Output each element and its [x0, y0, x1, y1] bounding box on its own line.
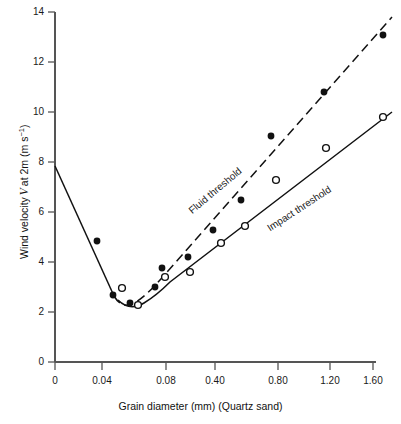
data-point-fluid-9 — [321, 89, 328, 96]
y-tick-label-14: 14 — [20, 6, 44, 17]
x-tick-label-0.04: 0.04 — [84, 375, 120, 386]
data-point-fluid-8 — [268, 133, 275, 140]
x-tick-label-1.20: 1.20 — [312, 375, 348, 386]
figure-container: 02468101214 00.040.080.400.801.201.60 Wi… — [0, 0, 401, 424]
data-point-impact-3 — [187, 269, 194, 276]
x-axis-label: Grain diameter (mm) (Quartz sand) — [0, 400, 401, 412]
data-point-impact-6 — [273, 177, 280, 184]
fluid-threshold-line — [114, 17, 392, 305]
data-point-fluid-7 — [238, 197, 245, 204]
data-point-fluid-2 — [127, 300, 134, 307]
data-point-impact-0 — [119, 285, 126, 292]
x-tick-label-0.08: 0.08 — [148, 375, 184, 386]
x-tick-label-0.80: 0.80 — [260, 375, 296, 386]
descending-branch-line — [55, 166, 114, 296]
data-point-fluid-5 — [185, 254, 192, 261]
data-point-fluid-10 — [380, 32, 387, 39]
chart-canvas — [0, 0, 401, 424]
data-point-fluid-3 — [152, 284, 159, 291]
y-axis-label-prefix: Wind velocity — [18, 197, 30, 259]
y-axis-label-suffix: at 2m (m s−1) — [18, 124, 30, 186]
x-tick-label-0.40: 0.40 — [197, 375, 233, 386]
velocity-symbol: V — [18, 186, 30, 197]
data-point-impact-2 — [162, 274, 169, 281]
data-point-impact-1 — [135, 302, 142, 309]
data-point-fluid-6 — [210, 227, 217, 234]
curve-lines — [55, 17, 392, 307]
data-point-fluid-1 — [110, 292, 117, 299]
x-tick-label-0: 0 — [37, 375, 73, 386]
x-tick-label-1.60: 1.60 — [355, 375, 391, 386]
data-point-impact-7 — [323, 145, 330, 152]
y-tick-label-2: 2 — [20, 306, 44, 317]
data-point-impact-4 — [218, 240, 225, 247]
data-point-fluid-4 — [159, 265, 166, 272]
y-tick-marks — [48, 12, 55, 362]
impact-threshold-line — [118, 112, 392, 307]
x-tick-marks — [55, 362, 373, 370]
data-point-impact-8 — [380, 114, 387, 121]
data-point-fluid-0 — [94, 238, 101, 245]
y-axis-label: Wind velocityVat 2m (m s−1) — [16, 112, 30, 272]
y-tick-label-0: 0 — [20, 356, 44, 367]
y-tick-label-12: 12 — [20, 56, 44, 67]
data-point-impact-5 — [242, 223, 249, 230]
